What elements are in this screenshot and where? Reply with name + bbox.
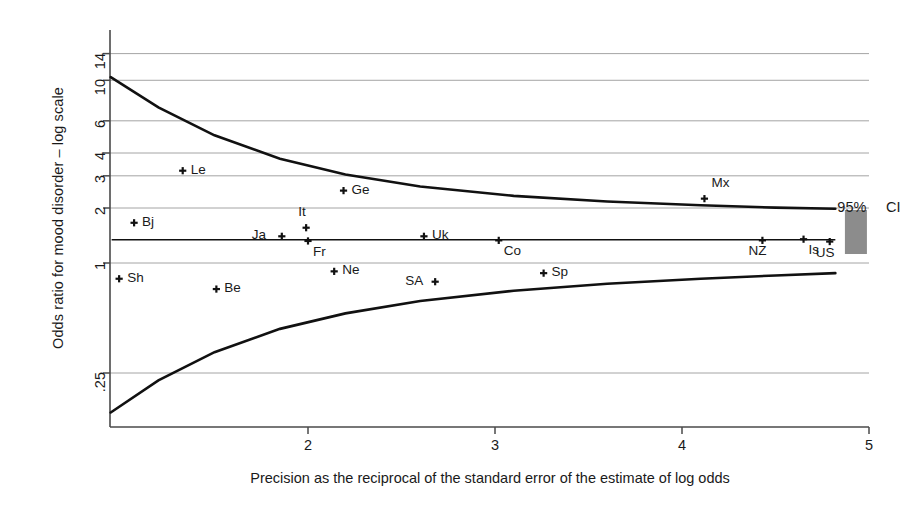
annotation-ci-percent: 95%: [837, 199, 866, 215]
data-marker-ge: [340, 187, 347, 194]
data-marker-fr: [304, 237, 311, 244]
data-marker-is: [800, 236, 807, 243]
point-label-be: Be: [224, 280, 241, 295]
gridlines-group: [110, 54, 869, 373]
data-marker-le: [179, 167, 186, 174]
point-label-ne: Ne: [342, 262, 359, 277]
point-label-us: US: [816, 245, 835, 260]
point-label-ge: Ge: [352, 182, 370, 197]
x-tick-label: 2: [288, 437, 328, 453]
data-marker-sa: [432, 278, 439, 285]
data-marker-mx: [701, 195, 708, 202]
data-marker-uk: [420, 233, 427, 240]
point-label-mx: Mx: [711, 175, 729, 190]
x-tick-label: 4: [662, 437, 702, 453]
point-label-ja: Ja: [252, 227, 266, 242]
ci-swatch: [845, 210, 867, 254]
point-label-sh: Sh: [127, 270, 144, 285]
point-label-le: Le: [191, 162, 206, 177]
x-tick-label: 3: [475, 437, 515, 453]
ci-swatch-group: [845, 210, 867, 254]
point-label-sa: SA: [405, 273, 423, 288]
funnel-plot-figure: Odds ratio for mood disorder – log scale…: [0, 0, 910, 509]
data-marker-be: [213, 285, 220, 292]
y-tick-label: 1: [92, 262, 108, 302]
x-tick-label: 5: [849, 437, 889, 453]
point-label-co: Co: [504, 243, 521, 258]
data-marker-ne: [331, 268, 338, 275]
data-marker-sh: [116, 275, 123, 282]
data-marker-it: [303, 224, 310, 231]
data-marker-sp: [540, 270, 547, 277]
point-label-uk: Uk: [432, 227, 449, 242]
data-marker-ja: [278, 233, 285, 240]
axis-spines-group: [110, 30, 869, 427]
point-label-sp: Sp: [552, 264, 569, 279]
funnel-curves-group: [111, 77, 836, 412]
funnel-lower-curve: [111, 273, 836, 412]
y-tick-label: 10: [92, 79, 108, 119]
data-marker-bj: [130, 219, 137, 226]
y-tick-label: 2: [92, 207, 108, 247]
y-tick-label: .25: [92, 372, 108, 412]
plot-canvas: [0, 0, 910, 509]
data-marker-co: [495, 237, 502, 244]
annotation-ci-text: CI: [886, 199, 901, 215]
point-label-nz: NZ: [748, 243, 766, 258]
point-label-it: It: [298, 204, 306, 219]
point-label-fr: Fr: [313, 244, 326, 259]
point-label-bj: Bj: [142, 214, 154, 229]
